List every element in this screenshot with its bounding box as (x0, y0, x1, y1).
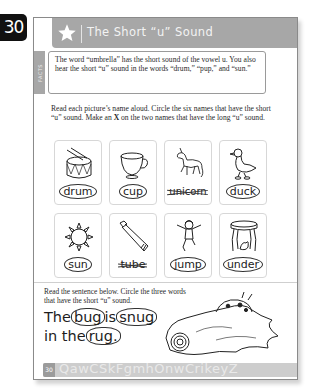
sun-icon (63, 219, 95, 255)
word-label: duck (222, 184, 264, 200)
bug-under-rug-icon (156, 292, 284, 358)
picture-card: drum (54, 140, 102, 205)
word-label: under (222, 257, 264, 273)
footer-page-number: 30 (43, 363, 55, 377)
sentence-word: The (44, 309, 71, 325)
word-label: sun (57, 257, 99, 273)
facts-text: The word “umbrella” has the short sound … (55, 55, 256, 73)
picture-grid: drum cup unicorn (54, 140, 272, 278)
sentence-word-circled: bug (71, 308, 105, 326)
word-label: tube (112, 257, 154, 273)
footer-decorative-letters: QawCSkFgmhOnwCrikeyZ (59, 363, 238, 376)
picture-card: tube (109, 213, 157, 278)
picture-card: unicorn (164, 140, 212, 205)
picture-card: sun (54, 213, 102, 278)
tube-icon (118, 219, 150, 255)
page-number-tab: 30 (0, 14, 27, 41)
section-divider (34, 282, 297, 283)
word-label: cup (112, 184, 154, 200)
picture-card: cup (109, 140, 157, 205)
unicorn-icon (173, 146, 205, 182)
word-label: drum (57, 184, 99, 200)
sentence-word-circled: snug (116, 308, 157, 326)
page-title: The Short “u” Sound (87, 25, 213, 39)
word-label: unicorn (167, 184, 209, 200)
page-header: The Short “u” Sound (52, 18, 297, 48)
table-with-cat-under-icon (228, 219, 260, 255)
facts-box: The word “umbrella” has the short sound … (48, 51, 266, 94)
exercise-instructions: Read each picture’s name aloud. Circle t… (51, 104, 271, 122)
duck-icon (228, 146, 260, 182)
picture-card: under (219, 213, 267, 278)
star-icon (57, 23, 77, 43)
jumping-child-icon (173, 219, 205, 255)
drum-icon (63, 146, 95, 182)
header-divider (81, 25, 82, 43)
picture-card: jump (164, 213, 212, 278)
cup-icon (118, 146, 150, 182)
word-label: jump (167, 257, 209, 273)
instructions-text-2: on the two names that have the long “u” … (119, 113, 265, 122)
facts-tab-label: FACTS (37, 64, 43, 82)
practice-sentence: Thebugissnug in therug. (44, 308, 174, 346)
page-footer: 30 QawCSkFgmhOnwCrikeyZ (43, 363, 297, 377)
sentence-word: is (105, 309, 117, 325)
sentence-word: in the (44, 328, 86, 344)
sentence-word-circled: rug. (86, 327, 121, 345)
worksheet-page: The Short “u” Sound FACTS The word “umbr… (33, 17, 298, 380)
picture-card: duck (219, 140, 267, 205)
facts-tab: FACTS (34, 51, 45, 94)
